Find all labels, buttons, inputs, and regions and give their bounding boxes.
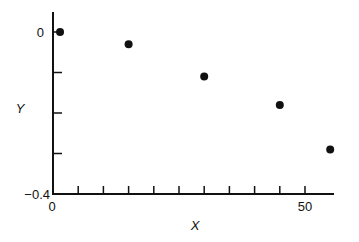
data-points [56,28,334,153]
x-tick-label-max: 50 [298,199,312,214]
x-tick-label-origin: 0 [48,199,55,214]
scatter-chart: 0 −0.4 0 50 X Y [0,0,359,242]
data-point [200,73,208,81]
y-axis-title: Y [16,101,26,116]
x-axis-title: X [190,218,201,233]
x-ticks [78,186,305,194]
data-point [125,40,133,48]
data-point [326,145,334,153]
data-point [276,101,284,109]
axes [52,12,334,194]
y-tick-label-bottom: −0.4 [24,187,50,202]
data-point [56,28,64,36]
y-ticks [53,32,62,154]
y-tick-label-top: 0 [37,25,44,40]
